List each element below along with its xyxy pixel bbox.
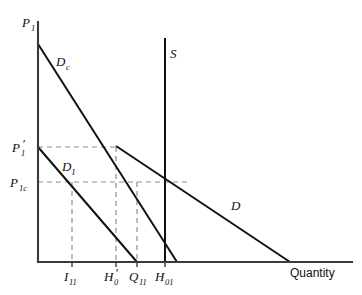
- y-tick-p1prime-text: P: [11, 140, 20, 155]
- x-tick-label-i11: I 11: [63, 269, 77, 287]
- y-axis-label-text: P: [21, 15, 30, 30]
- x-tick-label-q11: Q 11: [129, 269, 147, 287]
- x-tick-q11-text: Q: [129, 269, 139, 284]
- curve-label-di: D I: [61, 159, 76, 177]
- curve-label-d: D: [230, 198, 241, 213]
- x-axis-title: Quantity: [290, 266, 335, 280]
- curve-label-dc-text: D: [55, 54, 66, 69]
- y-tick-p1prime-prime: ′: [22, 136, 25, 151]
- y-axis-label-subscript: 1: [31, 23, 35, 33]
- y-tick-p1c-text: P: [9, 175, 18, 190]
- y-tick-p1c-subscript: 1c: [19, 183, 27, 193]
- curve-d: [116, 146, 290, 262]
- x-tick-label-h0prime: H 0 ′: [103, 265, 119, 287]
- curve-label-di-subscript: I: [71, 167, 76, 177]
- x-tick-h01-subscript: 01: [165, 277, 174, 287]
- x-tick-label-h01: H 01: [154, 269, 174, 287]
- curve-label-di-text: D: [61, 159, 72, 174]
- x-tick-h0prime-text: H: [103, 269, 114, 284]
- curve-dc: [38, 44, 177, 262]
- x-tick-h01-text: H: [154, 269, 165, 284]
- x-tick-i11-subscript: 11: [69, 277, 77, 287]
- curve-label-s: S: [170, 46, 177, 61]
- curve-label-dc-subscript: c: [66, 62, 70, 72]
- axes: [38, 22, 352, 262]
- y-tick-label-p1c: P 1c: [9, 175, 27, 193]
- curve-di: [38, 147, 137, 262]
- y-axis-label: P 1: [21, 15, 35, 33]
- y-tick-label-p1prime: P 1 ′: [11, 136, 25, 158]
- economics-diagram: P 1 P 1 ′ P 1c I 11 H 0 ′ Q 11 H: [0, 0, 362, 295]
- x-tick-q11-subscript: 11: [139, 277, 147, 287]
- curve-label-dc: D c: [55, 54, 70, 72]
- x-tick-h0prime-prime: ′: [115, 265, 118, 280]
